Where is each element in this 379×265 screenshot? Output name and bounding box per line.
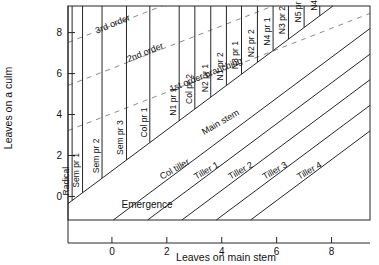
svg-text:N2 pr 2: N2 pr 2 <box>246 29 256 57</box>
chart-background <box>0 0 379 265</box>
svg-text:Sem pr 3: Sem pr 3 <box>115 120 125 155</box>
svg-text:8: 8 <box>329 246 335 257</box>
svg-text:Emergence: Emergence <box>122 199 174 210</box>
svg-text:Col pr 1: Col pr 1 <box>139 107 149 137</box>
svg-text:6: 6 <box>56 68 62 79</box>
svg-text:N4 pr 2: N4 pr 2 <box>309 0 319 11</box>
svg-text:2: 2 <box>164 246 170 257</box>
svg-text:N3 pr 2: N3 pr 2 <box>277 6 287 34</box>
svg-text:Sem pr 2: Sem pr 2 <box>91 138 101 173</box>
chart-figure: 0246802468 RadicalSem pr 1Sem pr 2Sem pr… <box>0 0 379 265</box>
svg-text:0: 0 <box>109 246 115 257</box>
x-axis-title: Leaves on main stem <box>176 251 276 263</box>
svg-text:N5 pr 1: N5 pr 1 <box>293 0 303 23</box>
svg-text:4: 4 <box>56 109 62 120</box>
svg-text:8: 8 <box>56 27 62 38</box>
svg-text:Sem pr 1: Sem pr 1 <box>71 153 81 188</box>
leaf-emergence-chart: 0246802468 RadicalSem pr 1Sem pr 2Sem pr… <box>0 0 379 265</box>
svg-text:2: 2 <box>56 150 62 161</box>
svg-text:N4 pr 1: N4 pr 1 <box>262 17 272 45</box>
y-axis-title: Leaves on a culm <box>2 67 14 150</box>
svg-text:Radical: Radical <box>61 167 71 196</box>
chart-annotations: Emergence <box>122 199 174 210</box>
